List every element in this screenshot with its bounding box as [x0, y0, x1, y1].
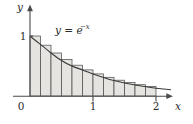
x-axis-label: x: [175, 100, 181, 112]
riemann-sum-figure: y x 0 1 2 1 y = e −x: [0, 0, 193, 124]
figure-container: y x 0 1 2 1 y = e −x: [0, 0, 193, 124]
curve-equation-exponent: −x: [80, 23, 90, 31]
riemann-rect: [30, 36, 41, 96]
riemann-rect: [41, 45, 52, 96]
riemann-rectangles: [30, 36, 156, 96]
y-axis-arrow-icon: [27, 5, 33, 12]
x-axis-arrow-icon: [166, 93, 173, 99]
curve-equation-base: y = e: [54, 24, 83, 36]
x-tick-label-1: 1: [90, 100, 97, 112]
x-tick-label-2: 2: [153, 100, 160, 112]
curve-equation-label: y = e −x: [54, 23, 90, 37]
origin-label: 0: [18, 100, 25, 112]
y-tick-label-1: 1: [20, 30, 27, 42]
y-axis-label: y: [16, 1, 24, 13]
